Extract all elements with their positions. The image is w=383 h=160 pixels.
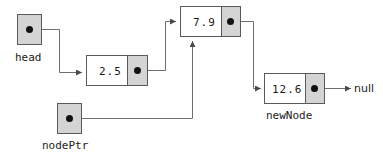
- node-7-9-pointer-dot: [227, 18, 234, 25]
- node-12-6-value: 12.6: [272, 84, 303, 95]
- node-12-6-label-newnode: newNode: [266, 110, 312, 121]
- link-node-7-9-to-node-12-6: [241, 22, 262, 89]
- pointer-label-nodeptr: nodePtr: [42, 140, 88, 151]
- node-2-5-pointer-dot: [134, 67, 141, 74]
- null-terminator-label: null: [354, 83, 374, 94]
- link-node-2-5-to-node-7-9: [148, 22, 177, 71]
- pointer-label-head: head: [15, 52, 42, 63]
- node-12-6-pointer-dot: [311, 85, 318, 92]
- linked-list-diagram: head 2.5 7.9 12.6 newNode null nodePtr: [0, 0, 383, 160]
- pointer-dot-nodeptr: [66, 115, 73, 122]
- node-2-5-value: 2.5: [99, 66, 122, 77]
- pointer-dot-head: [26, 26, 33, 33]
- node-7-9-value: 7.9: [193, 17, 216, 28]
